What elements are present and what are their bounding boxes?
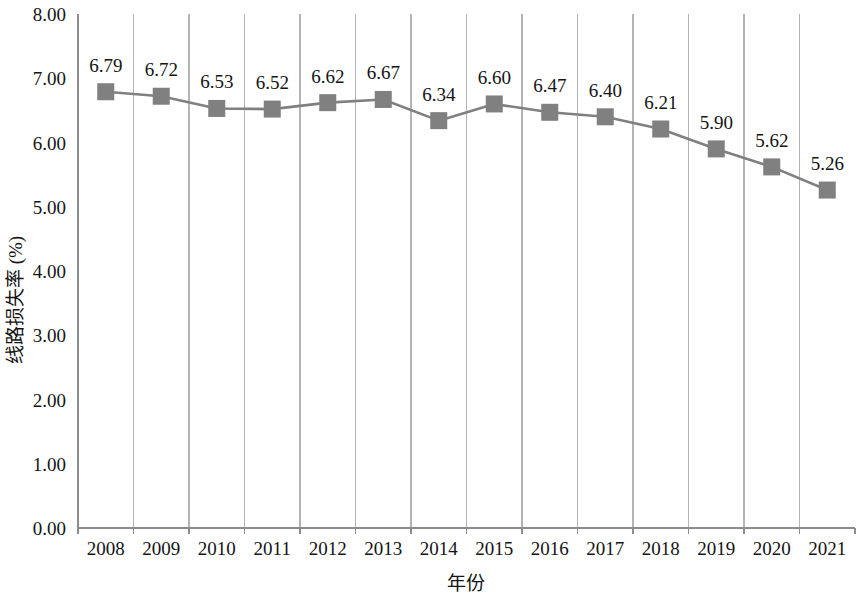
data-point-marker <box>652 121 669 138</box>
data-point-marker <box>597 108 614 125</box>
data-point-label: 6.52 <box>256 72 289 93</box>
data-point-label: 5.62 <box>755 130 788 151</box>
data-point-label: 6.60 <box>478 67 511 88</box>
data-point-marker <box>319 94 336 111</box>
data-point-marker <box>153 88 170 105</box>
data-point-marker <box>541 104 558 121</box>
data-point-label: 6.79 <box>89 55 122 76</box>
y-axis-tick-label: 4.00 <box>33 261 66 282</box>
x-axis-tickmarks <box>78 528 855 534</box>
x-axis-tick-label: 2017 <box>586 538 624 559</box>
data-point-marker <box>819 182 836 199</box>
chart-canvas: 0.001.002.003.004.005.006.007.008.00 200… <box>0 0 860 595</box>
x-axis-title: 年份 <box>447 573 485 594</box>
data-point-label: 6.21 <box>644 92 677 113</box>
data-point-marker <box>486 95 503 112</box>
y-axis-tick-label: 8.00 <box>33 4 66 25</box>
y-axis-tick-label: 2.00 <box>33 390 66 411</box>
x-axis-tick-label: 2019 <box>697 538 735 559</box>
x-axis-tick-label: 2020 <box>753 538 791 559</box>
y-axis-tick-label: 6.00 <box>33 133 66 154</box>
gridlines <box>134 14 800 528</box>
x-axis-tick-label: 2010 <box>198 538 236 559</box>
data-point-label: 5.26 <box>811 153 844 174</box>
data-point-label: 6.47 <box>533 75 566 96</box>
x-axis-tick-label: 2009 <box>142 538 180 559</box>
data-point-marker <box>208 100 225 117</box>
x-axis-tick-label: 2021 <box>808 538 846 559</box>
data-point-marker <box>708 140 725 157</box>
data-point-label: 6.40 <box>589 80 622 101</box>
data-point-label: 6.53 <box>200 71 233 92</box>
x-axis-tick-label: 2015 <box>475 538 513 559</box>
x-axis-tick-label: 2016 <box>531 538 569 559</box>
y-axis-title: 线路损失率 (%) <box>5 236 27 364</box>
data-point-marker <box>375 91 392 108</box>
data-point-label: 6.67 <box>367 62 400 83</box>
x-axis-tick-label: 2012 <box>309 538 347 559</box>
x-axis-tick-label: 2008 <box>87 538 125 559</box>
y-axis-tick-label: 5.00 <box>33 197 66 218</box>
x-axis-tick-label: 2011 <box>254 538 291 559</box>
data-point-label: 6.34 <box>422 84 456 105</box>
x-axis-tick-labels: 2008200920102011201220132014201520162017… <box>87 538 847 559</box>
data-point-marker <box>97 83 114 100</box>
y-axis-tick-label: 3.00 <box>33 325 66 346</box>
y-axis-tick-label: 7.00 <box>33 68 66 89</box>
y-axis-tick-label: 1.00 <box>33 454 66 475</box>
data-point-label: 5.90 <box>700 112 733 133</box>
data-point-marker <box>264 101 281 118</box>
data-point-label: 6.72 <box>145 59 178 80</box>
y-axis-tick-label: 0.00 <box>33 518 66 539</box>
data-point-marker <box>430 112 447 129</box>
data-point-label: 6.62 <box>311 66 344 87</box>
x-axis-tick-label: 2018 <box>642 538 680 559</box>
data-point-marker <box>763 158 780 175</box>
line-chart-figure: 0.001.002.003.004.005.006.007.008.00 200… <box>0 0 860 595</box>
x-axis-tick-label: 2014 <box>420 538 459 559</box>
y-axis-tick-labels: 0.001.002.003.004.005.006.007.008.00 <box>33 4 66 539</box>
x-axis-tick-label: 2013 <box>364 538 402 559</box>
